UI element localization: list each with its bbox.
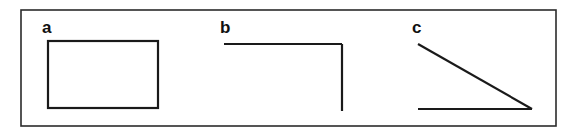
figure-canvas: a b c: [0, 0, 567, 136]
panel-c-label: c: [412, 18, 421, 37]
panel-b: b: [220, 18, 342, 111]
panel-c-diagonal-segment: [418, 44, 532, 109]
panel-a: a: [42, 18, 158, 108]
panel-c: c: [412, 18, 532, 109]
figure-panel: a b c: [0, 0, 567, 136]
panel-a-rectangle-shape: [48, 41, 158, 108]
panel-b-label: b: [220, 18, 230, 37]
panel-a-label: a: [42, 18, 52, 37]
